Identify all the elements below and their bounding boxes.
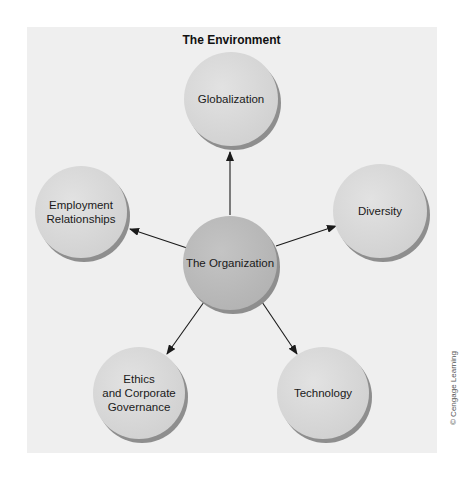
node-label-diversity: Diversity — [333, 164, 427, 258]
arrow-to-employment-relationships — [130, 229, 187, 248]
copyright-credit: © Cengage Learning — [449, 351, 458, 425]
node-label-organization: The Organization — [183, 216, 277, 310]
arrow-to-diversity — [276, 226, 336, 246]
node-label-ethics-corporate-governance: Ethics and Corporate Governance — [93, 347, 185, 439]
node-label-technology: Technology — [277, 347, 369, 439]
node-label-globalization: Globalization — [184, 52, 278, 146]
node-label-employment-relationships: Employment Relationships — [35, 166, 127, 258]
